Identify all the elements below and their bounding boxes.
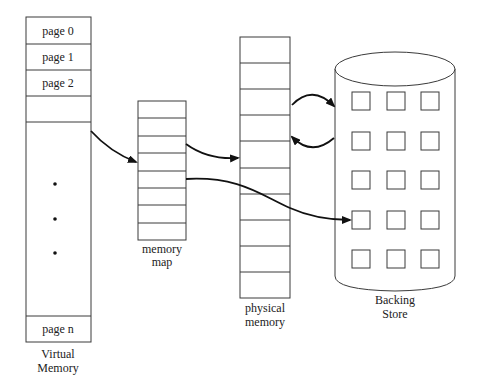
arrow-virtual-to-map — [91, 131, 136, 162]
virtual-memory-title-2: Memory — [37, 361, 78, 375]
backing-store-title-1: Backing — [375, 293, 415, 307]
ellipsis-dot — [53, 251, 57, 255]
arrow-physical-to-backing — [292, 95, 334, 106]
memory-map-title-1: memory — [142, 242, 182, 256]
ellipsis-dot — [53, 182, 57, 186]
ellipsis-dot — [53, 217, 57, 221]
page-0-label: page 0 — [42, 24, 74, 38]
page-1-label: page 1 — [42, 50, 74, 64]
page-n-label: page n — [42, 322, 74, 336]
backing-store: Backing Store — [335, 52, 455, 321]
virtual-memory-title-1: Virtual — [41, 347, 75, 361]
arrow-map-to-physical — [186, 144, 238, 158]
arrow-backing-to-physical — [292, 137, 334, 147]
virtual-memory: page 0 page 1 page 2 page n Virtual Memo… — [26, 17, 91, 375]
memory-map: memory map — [138, 101, 186, 269]
page-2-label: page 2 — [42, 76, 74, 90]
virtual-memory-frame — [26, 17, 91, 342]
physical-memory-title-1: physical — [245, 301, 286, 315]
backing-store-title-2: Store — [382, 307, 407, 321]
cylinder-top — [335, 52, 455, 86]
physical-memory: physical memory — [240, 37, 290, 329]
memory-map-title-2: map — [152, 255, 173, 269]
physical-memory-title-2: memory — [245, 315, 285, 329]
paging-diagram: page 0 page 1 page 2 page n Virtual Memo… — [0, 0, 479, 388]
